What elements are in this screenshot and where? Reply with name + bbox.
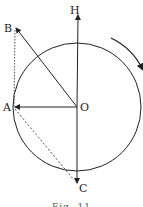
figure-caption: Fig. 11 <box>0 202 143 207</box>
vector-ob <box>16 28 77 107</box>
vector-oh <box>77 15 78 107</box>
vector-circle-diagram: H B O A C Fig. 11 <box>0 0 143 207</box>
rotation-arrow-icon <box>111 38 143 70</box>
label-c: C <box>79 183 87 194</box>
label-a: A <box>3 102 11 113</box>
dashed-ac <box>15 109 74 180</box>
diagram-svg <box>0 0 143 207</box>
label-o: O <box>80 102 89 113</box>
label-b: B <box>4 23 12 34</box>
label-h: H <box>70 5 80 16</box>
